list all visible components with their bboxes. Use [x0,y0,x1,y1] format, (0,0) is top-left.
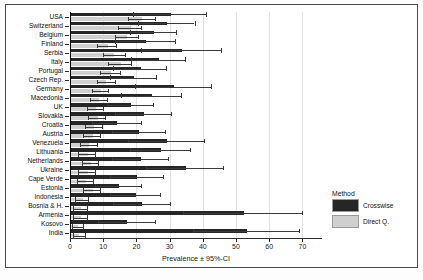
error-bar-cap [206,12,207,16]
error-bar-cap [141,121,142,125]
error-bar-cap [90,98,91,102]
x-tick-label: 30 [166,243,174,250]
error-bar-cap [185,57,186,61]
error-bar-cap [103,107,104,111]
error-bar-cap [100,188,101,192]
error-bar-cap [141,184,142,188]
error-bar-cap [92,89,93,93]
y-axis-label: Finland [41,40,63,47]
error-bar-cap [166,66,167,70]
error-bar-cap [155,17,156,21]
error-bar-cap [120,71,121,75]
error-bar-cap [108,89,109,93]
error-bar-cap [110,193,111,197]
error-bar-cap [105,116,106,120]
error-bar-cap [83,188,84,192]
error-bar [82,163,99,164]
error-bar [78,172,95,173]
error-bar-cap [100,71,101,75]
y-tick [65,125,69,126]
error-bar-cap [98,220,99,224]
gridline [302,12,303,238]
error-bar [85,127,102,128]
error-bar-cap [73,215,74,219]
error-bar-cap [211,84,212,88]
x-tick-label: 0 [68,243,72,250]
x-tick [70,238,71,242]
gridline [269,12,270,238]
error-bar-cap [160,193,161,197]
error-bar-cap [88,197,89,201]
error-bar-cap [100,134,101,138]
error-bar-cap [113,66,114,70]
error-bar-cap [130,30,131,34]
error-bar [108,64,131,65]
error-bar-cap [78,152,79,156]
y-tick [65,71,69,72]
error-bar-cap [170,202,171,206]
error-bar-cap [138,21,139,25]
error-bar [107,105,153,106]
y-axis-label: Slovakia [38,113,63,120]
error-bar-cap [125,53,126,57]
error-bar-cap [78,170,79,174]
y-axis-label: Czech Rep. [29,77,63,84]
x-tick [170,238,171,242]
x-tick-label: 40 [199,243,207,250]
gridline [203,12,204,238]
error-bar [128,19,155,20]
y-axis-label: Portugal [38,67,63,74]
y-axis-label: Switzerland [29,22,63,29]
error-bar-cap [190,148,191,152]
legend-item-direct: Direct Q. [332,215,410,228]
y-tick [65,179,69,180]
y-axis-label: Macedonia [31,95,63,102]
error-bar-cap [97,80,98,84]
error-bar-cap [135,84,136,88]
error-bar-cap [97,44,98,48]
x-tick-label: 60 [265,243,273,250]
error-bar [121,96,181,97]
error-bar-cap [98,161,99,165]
error-bar-cap [165,130,166,134]
error-bar-cap [302,211,303,215]
error-bar-cap [95,152,96,156]
error-bar [112,159,168,160]
y-axis-label: Kosovo [41,221,63,228]
y-axis-label: Armenia [38,212,63,219]
legend-label-crosswise: Crosswise [363,202,393,209]
x-tick [203,238,204,242]
error-bar-cap [83,134,84,138]
error-bar-cap [141,26,142,30]
error-bar-cap [299,229,300,233]
y-axis-label: UK [54,104,63,111]
y-axis-label: Belgium [39,31,63,38]
error-bar [90,100,107,101]
y-axis-label: Ukraine [40,167,63,174]
y-tick [65,215,69,216]
error-bar-cap [116,44,117,48]
y-tick [65,107,69,108]
legend-item-crosswise: Crosswise [332,199,410,212]
x-tick [269,238,270,242]
x-tick [103,238,104,242]
error-bar [138,23,194,24]
error-bar [92,91,109,92]
error-bar-cap [183,211,184,215]
y-tick [65,233,69,234]
error-bar-cap [193,229,194,233]
error-bar-cap [115,80,116,84]
y-tick [65,152,69,153]
y-tick [65,62,69,63]
error-bar-cap [82,161,83,165]
y-axis-label: India [49,230,63,237]
error-bar-cap [181,93,182,97]
error-bar-cap [108,62,109,66]
error-bar [100,73,120,74]
error-bar [73,209,86,210]
error-bar-cap [128,17,129,21]
error-bar-cap [112,157,113,161]
x-axis-title: Prevalence ± 95%-CI [70,254,322,263]
x-tick-label: 50 [232,243,240,250]
error-bar-cap [87,206,88,210]
